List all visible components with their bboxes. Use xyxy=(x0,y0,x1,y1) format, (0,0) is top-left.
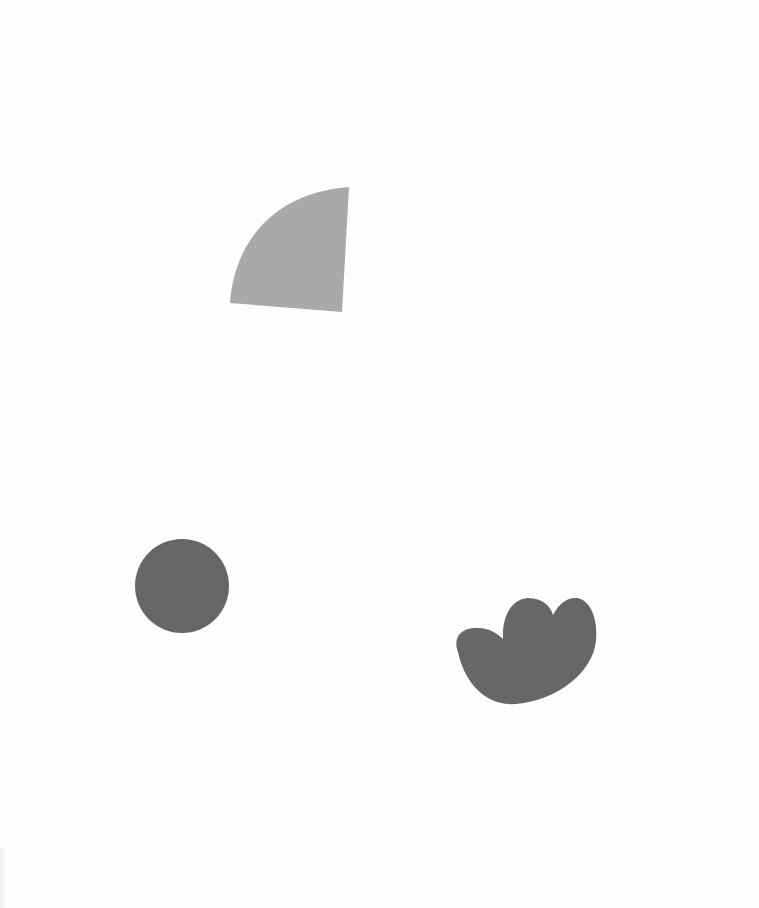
dark-circle-shape xyxy=(135,539,229,633)
blank-canvas xyxy=(0,0,759,908)
cloud-blob-shape xyxy=(456,598,596,704)
shapes-drawing xyxy=(0,0,759,908)
page-edge-shadow xyxy=(0,848,6,908)
gray-wedge-shape xyxy=(230,187,349,312)
